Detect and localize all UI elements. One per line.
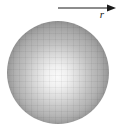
sphere (7, 21, 109, 124)
radius-label: r (95, 9, 109, 20)
figure-canvas: r (0, 0, 123, 130)
